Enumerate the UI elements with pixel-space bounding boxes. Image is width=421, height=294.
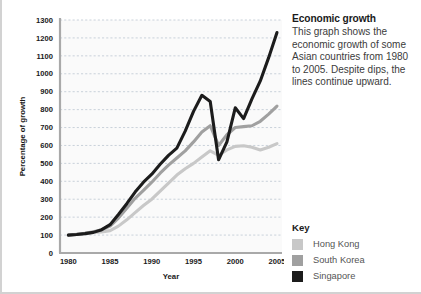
y-axis-title: Percentage of growth <box>18 96 27 176</box>
y-axis-tick-label: 1300 <box>36 16 53 25</box>
panel-title: Economic growth <box>292 12 417 25</box>
x-axis-tick-label: 1990 <box>143 257 160 266</box>
x-axis-tick-label: 2005 <box>269 257 284 266</box>
legend-item: Hong Kong <box>292 237 417 252</box>
legend-item: South Korea <box>292 253 417 268</box>
y-axis-tick-label: 1000 <box>36 69 53 78</box>
x-axis-tick-label: 2000 <box>227 257 244 266</box>
description-panel: Economic growth This graph shows the eco… <box>292 12 417 89</box>
y-axis-tick-label: 1100 <box>37 52 53 61</box>
y-axis-tick-label: 800 <box>40 105 53 114</box>
y-axis-tick-label: 400 <box>40 177 53 186</box>
x-axis-tick-label: 1995 <box>185 257 203 266</box>
x-axis-tick-label: 1985 <box>102 257 120 266</box>
legend-item-label: Hong Kong <box>313 239 360 250</box>
legend-item-label: South Korea <box>313 255 365 266</box>
y-axis-tick-label: 200 <box>40 213 53 222</box>
y-axis-tick-label: 900 <box>40 87 53 96</box>
y-axis-tick-label: 300 <box>40 195 53 204</box>
line-chart: 0100200300400500600700800900100011001200… <box>8 4 284 290</box>
y-axis-tick-label: 700 <box>40 123 53 132</box>
legend-swatch-icon <box>292 239 303 250</box>
legend-item: Singapore <box>292 269 417 284</box>
y-axis-tick-label: 1200 <box>36 34 53 43</box>
y-axis-tick-label: 0 <box>49 249 53 258</box>
y-axis-tick-label: 100 <box>40 231 53 240</box>
y-axis-tick-label: 500 <box>40 159 53 168</box>
chart-canvas: 0100200300400500600700800900100011001200… <box>8 4 284 290</box>
x-axis-tick-label: 1980 <box>60 257 77 266</box>
legend-items: Hong KongSouth KoreaSingapore <box>292 237 417 284</box>
legend-item-label: Singapore <box>313 271 355 282</box>
legend-swatch-icon <box>292 255 303 266</box>
chart-legend: Key Hong KongSouth KoreaSingapore <box>292 222 417 285</box>
legend-title: Key <box>292 222 417 233</box>
plot-background <box>60 20 282 253</box>
legend-swatch-icon <box>292 271 303 282</box>
panel-description: This graph shows the economic growth of … <box>292 26 417 89</box>
y-axis-tick-label: 600 <box>40 141 53 150</box>
x-axis-title: Year <box>163 272 179 281</box>
figure-frame: 0100200300400500600700800900100011001200… <box>0 0 421 294</box>
